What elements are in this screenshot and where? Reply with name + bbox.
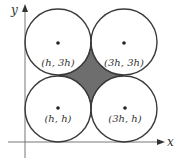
center-dot-bottom-right: [123, 106, 127, 110]
label-top-left: (h, 3h): [41, 57, 75, 68]
label-bottom-left: (h, h): [44, 113, 71, 124]
x-axis-arrow-icon: [157, 139, 165, 145]
four-circles-diagram: x y (h, 3h) (3h, 3h) (h, h) (3h, h): [0, 0, 175, 160]
center-dot-bottom-left: [56, 106, 60, 110]
center-dot-top-left: [56, 41, 60, 45]
y-axis-arrow-icon: [22, 4, 28, 12]
shaded-region: [58, 42, 124, 109]
label-top-right: (3h, 3h): [104, 57, 144, 68]
x-axis-label: x: [167, 135, 174, 149]
center-dot-top-right: [122, 41, 126, 45]
label-bottom-right: (3h, h): [108, 113, 142, 124]
y-axis-label: y: [10, 3, 18, 17]
